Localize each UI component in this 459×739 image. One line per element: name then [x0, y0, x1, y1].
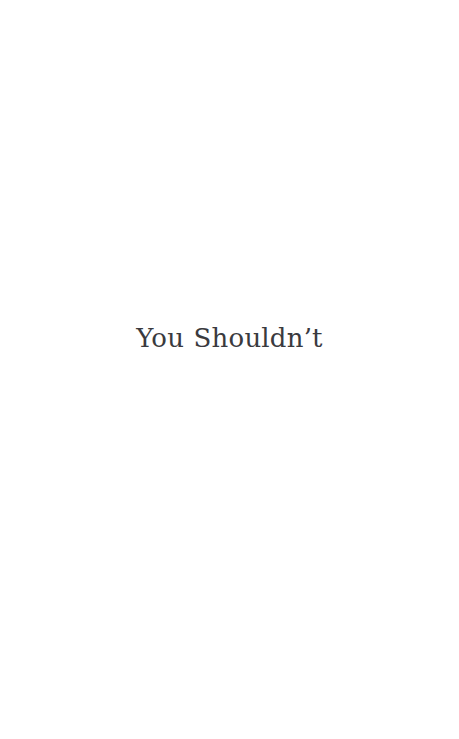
document-page: You Shouldn’t [0, 0, 459, 739]
page-title: You Shouldn’t [136, 322, 323, 354]
title-block: You Shouldn’t [0, 322, 459, 354]
